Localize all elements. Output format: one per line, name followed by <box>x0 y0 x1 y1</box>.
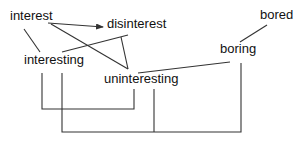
node-interest: interest <box>10 9 53 23</box>
word-relation-diagram: interest disinterest interesting uninter… <box>0 0 298 141</box>
node-uninteresting: uninteresting <box>104 72 178 86</box>
edge-disinterest-uninteresting <box>121 37 128 69</box>
edge-boring-bored <box>240 25 267 42</box>
node-boring: boring <box>220 42 256 56</box>
node-interesting: interesting <box>24 53 84 67</box>
node-bored: bored <box>260 8 293 22</box>
node-disinterest: disinterest <box>107 17 166 31</box>
edge-interest-interesting <box>24 29 40 52</box>
edge-interest-disinterest <box>48 23 103 27</box>
